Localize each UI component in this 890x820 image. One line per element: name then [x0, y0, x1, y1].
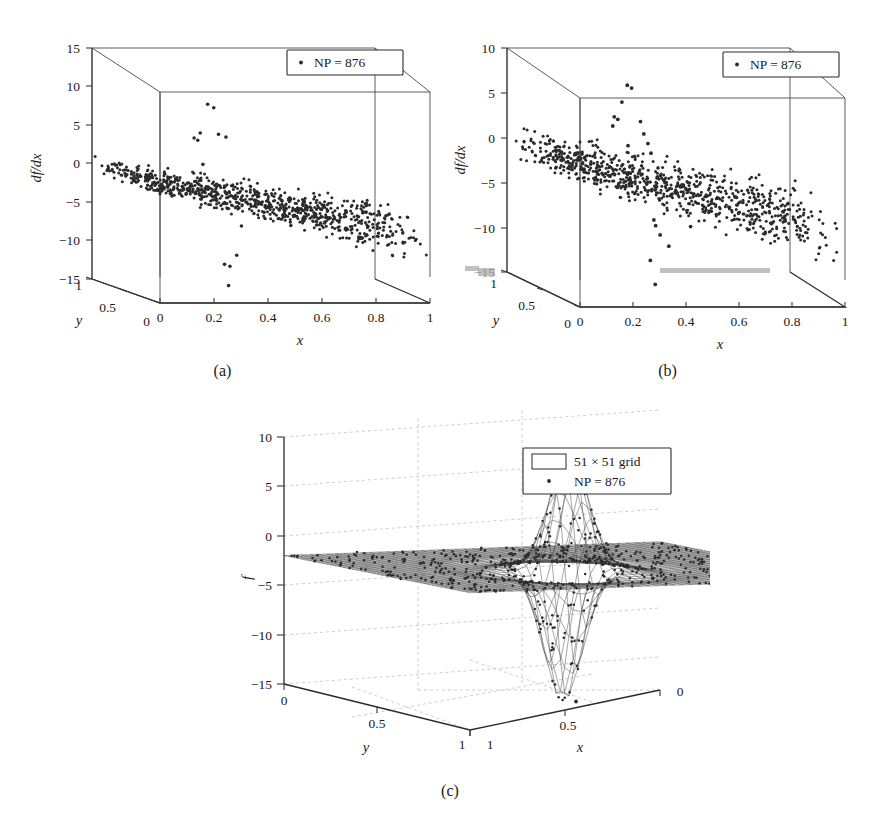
data-point — [735, 182, 738, 185]
data-point — [151, 176, 154, 179]
data-point — [348, 555, 351, 558]
data-point — [255, 190, 258, 193]
data-point — [782, 197, 785, 200]
data-point — [464, 555, 467, 558]
data-point — [628, 199, 631, 202]
data-point — [232, 196, 235, 199]
data-point — [548, 531, 551, 534]
data-point — [556, 584, 559, 587]
data-point — [557, 696, 560, 699]
data-point — [323, 200, 326, 203]
data-point — [325, 225, 328, 228]
data-point — [740, 189, 743, 192]
data-point — [559, 561, 562, 564]
data-point — [650, 574, 653, 577]
data-point — [357, 215, 360, 218]
data-point — [227, 284, 231, 288]
data-point — [595, 562, 598, 565]
data-point — [220, 195, 223, 198]
data-point — [762, 201, 765, 204]
data-point — [443, 572, 446, 575]
data-point — [798, 227, 801, 230]
data-point — [603, 153, 606, 156]
data-point — [412, 236, 415, 239]
data-point — [663, 578, 666, 581]
data-point — [524, 148, 527, 151]
data-point — [543, 543, 546, 546]
data-point — [625, 550, 628, 553]
data-point — [629, 172, 632, 175]
data-point — [801, 235, 804, 238]
data-point — [599, 557, 602, 560]
data-point — [713, 190, 716, 193]
data-point — [671, 546, 674, 549]
data-point — [593, 550, 596, 553]
data-point — [393, 552, 396, 555]
data-point — [568, 151, 571, 154]
data-point — [204, 202, 207, 205]
data-point — [590, 509, 593, 512]
data-point — [679, 214, 682, 217]
data-point — [228, 265, 232, 269]
data-point — [592, 177, 595, 180]
data-point — [714, 581, 717, 584]
data-point — [825, 244, 828, 247]
data-point — [538, 623, 541, 626]
data-point — [377, 210, 380, 213]
data-point — [802, 223, 805, 226]
data-point — [759, 203, 762, 206]
data-point — [278, 197, 281, 200]
data-point — [114, 164, 117, 167]
data-point — [245, 194, 248, 197]
data-point — [667, 177, 670, 180]
legend-label-b-0: NP = 876 — [750, 57, 802, 72]
data-point — [192, 136, 196, 140]
data-point — [648, 259, 652, 263]
data-point — [715, 214, 718, 217]
data-point — [593, 556, 596, 559]
data-point — [344, 227, 347, 230]
data-point — [676, 160, 679, 163]
data-point — [442, 549, 445, 552]
data-point — [255, 199, 258, 202]
data-point — [782, 230, 785, 233]
data-point — [565, 156, 568, 159]
data-point — [469, 553, 472, 556]
data-point — [637, 154, 640, 157]
z-tick-a-4: −5 — [66, 195, 81, 210]
data-point — [605, 560, 608, 563]
data-point — [604, 557, 607, 560]
data-point — [169, 182, 172, 185]
data-point — [330, 202, 333, 205]
data-point — [580, 157, 583, 160]
data-point — [668, 557, 671, 560]
data-point — [694, 174, 697, 177]
data-point — [504, 565, 507, 568]
data-point — [146, 188, 149, 191]
data-point — [646, 194, 649, 197]
data-point — [191, 190, 194, 193]
data-point — [686, 191, 689, 194]
data-point — [588, 581, 591, 584]
data-point — [682, 183, 685, 186]
data-point — [577, 668, 580, 671]
data-point — [264, 204, 267, 207]
data-point — [641, 160, 644, 163]
data-point — [568, 176, 571, 179]
data-point — [634, 175, 637, 178]
data-point — [150, 187, 153, 190]
data-point — [599, 533, 602, 536]
data-point — [559, 172, 562, 175]
data-point — [652, 561, 655, 564]
data-point — [807, 216, 810, 219]
data-point — [615, 549, 618, 552]
data-point — [604, 172, 607, 175]
data-point — [579, 140, 582, 143]
data-point — [401, 232, 404, 235]
data-point — [754, 198, 757, 201]
data-point — [747, 191, 750, 194]
data-point — [697, 220, 700, 223]
data-point — [495, 589, 498, 592]
data-point — [798, 208, 801, 211]
data-point — [714, 566, 717, 569]
